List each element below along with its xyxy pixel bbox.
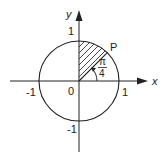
x-axis-label: x <box>151 75 158 87</box>
tick-y-neg: -1 <box>67 123 77 135</box>
tick-x-neg: -1 <box>26 86 36 98</box>
angle-arrow-icon <box>91 68 96 73</box>
y-axis-label: y <box>65 8 73 20</box>
unit-circle-diagram: y x 1 -1 -1 1 0 P π 4 <box>0 0 166 159</box>
angle-numerator: π <box>99 56 106 67</box>
tick-y-pos: 1 <box>68 25 74 37</box>
point-p-label: P <box>110 41 117 53</box>
origin-label: 0 <box>68 85 74 97</box>
y-axis-arrow-icon <box>76 10 83 21</box>
tick-x-pos: 1 <box>122 86 128 98</box>
angle-denominator: 4 <box>99 68 105 79</box>
x-axis-arrow-icon <box>137 78 148 85</box>
